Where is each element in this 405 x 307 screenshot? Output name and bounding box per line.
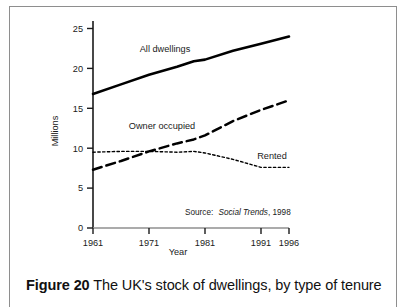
y-tick-label: 5 <box>78 183 83 193</box>
y-axis-tick-labels: 0510152025 <box>73 24 83 234</box>
x-axis-title: Year <box>169 247 188 257</box>
y-tick-label: 20 <box>73 64 83 74</box>
y-tick-label: 0 <box>78 223 83 233</box>
chart-plot-area: 0510152025 19611971198119911996 Millions… <box>10 7 396 262</box>
y-tick-label: 15 <box>73 104 83 114</box>
figure-caption-text: The UK's stock of dwellings, by type of … <box>93 277 381 293</box>
frame-border-right <box>396 6 397 307</box>
series-label-owner-occupied: Owner occupied <box>129 121 195 131</box>
y-tick-label: 25 <box>73 24 83 34</box>
line-chart: 0510152025 19611971198119911996 Millions… <box>10 7 396 262</box>
x-tick-label: 1981 <box>195 238 215 248</box>
y-axis-title: Millions <box>50 115 60 146</box>
figure-container: 0510152025 19611971198119911996 Millions… <box>0 0 405 307</box>
series-label-all-dwellings: All dwellings <box>140 44 191 54</box>
y-tick-label: 10 <box>73 144 83 154</box>
x-axis-tick-labels: 19611971198119911996 <box>83 238 299 248</box>
figure-caption: Figure 20 The UK's stock of dwellings, b… <box>26 277 386 293</box>
chart-series-group <box>93 36 289 169</box>
series-label-rented: Rented <box>257 151 287 161</box>
x-tick-label: 1991 <box>251 238 271 248</box>
source-publication: Social Trends <box>219 208 268 217</box>
series-line-all-dwellings <box>93 36 289 93</box>
x-axis-ticks <box>93 228 289 234</box>
x-tick-label: 1961 <box>83 238 103 248</box>
source-prefix: Source: <box>185 208 213 217</box>
x-tick-label: 1996 <box>279 238 299 248</box>
x-tick-label: 1971 <box>139 238 159 248</box>
figure-number: Figure 20 <box>26 277 90 293</box>
source-year: , 1998 <box>268 208 291 217</box>
y-axis-ticks <box>87 29 93 229</box>
chart-series-labels: All dwellingsOwner occupiedRented <box>129 44 287 161</box>
source-note: Source: Social Trends, 1998 <box>185 208 291 217</box>
